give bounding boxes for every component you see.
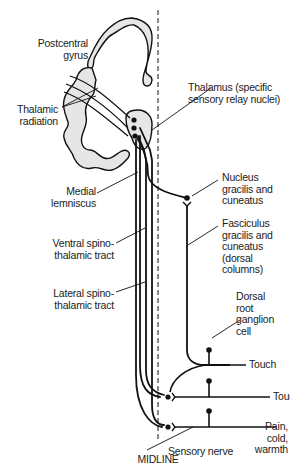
label-ventral-spinothalamic: Ventral spino- thalamic tract xyxy=(20,238,114,261)
ascending-tracts xyxy=(136,128,187,427)
label-medial-lemniscus: Medial lemniscus xyxy=(40,186,96,209)
label-dorsal-root-ganglion: Dorsal root ganglion cell xyxy=(236,291,274,337)
touch-branch xyxy=(170,365,205,392)
label-touch-2: Touch xyxy=(273,391,290,403)
label-pain-cold-warmth: Pain, cold, warmth xyxy=(240,421,288,456)
label-thalamus: Thalamus (specific sensory relay nuclei) xyxy=(188,82,280,105)
label-fasciculus-gracilis: Fasciculus gracilis and cuneatus (dorsal… xyxy=(222,218,273,276)
leader-lines xyxy=(62,88,240,450)
thalamus xyxy=(126,110,152,149)
ganglion-cells xyxy=(165,347,211,429)
label-thalamic-radiation: Thalamic radiation xyxy=(4,104,58,127)
label-postcentral-gyrus: Postcentral gyrus xyxy=(30,38,88,61)
label-midline: MIDLINE xyxy=(130,454,186,466)
label-nucleus-gracilis: Nucleus gracilis and cuneatus xyxy=(222,172,273,207)
synapse-forks xyxy=(172,393,175,431)
label-touch-1: Touch xyxy=(249,359,276,371)
label-lateral-spinothalamic: Lateral spino- thalamic tract xyxy=(20,288,114,311)
